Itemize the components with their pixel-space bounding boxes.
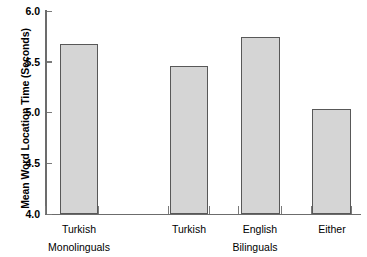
- x-label-bar-1: Turkish: [159, 224, 219, 235]
- bar-turkish-monolinguals: [60, 44, 98, 214]
- x-label-bar-3: Either: [302, 224, 362, 235]
- bar-turkish-bilinguals: [170, 66, 208, 214]
- x-tick-mark-0: [45, 206, 46, 214]
- y-tick-label-4: 4.0: [0, 209, 40, 220]
- y-axis-title: Mean Word Location Time (Seconds): [16, 11, 34, 226]
- bar-either-bilinguals: [312, 109, 351, 214]
- y-tick-label-6: 6.0: [0, 6, 40, 17]
- x-tick-mark-3: [209, 206, 210, 214]
- x-label-bar-2: English: [230, 224, 290, 235]
- x-tick-mark-1: [98, 206, 99, 214]
- x-label-bar-0: Turkish: [49, 224, 109, 235]
- y-tick-label-5: 5.0: [0, 107, 40, 118]
- y-tick-mark-5: [47, 112, 52, 113]
- x-tick-mark-7: [351, 206, 352, 214]
- y-tick-label-5-5: 5.5: [0, 57, 40, 68]
- bar-chart: Mean Word Location Time (Seconds) 6.0 5.…: [0, 0, 367, 257]
- y-tick-mark-5-5: [47, 61, 52, 62]
- bar-english-bilinguals: [241, 37, 280, 214]
- x-group-label-monolinguals: Monolinguals: [34, 242, 124, 253]
- y-tick-label-4-5: 4.5: [0, 158, 40, 169]
- x-tick-mark-4: [238, 206, 239, 214]
- x-group-label-bilinguals: Bilinguals: [210, 242, 300, 253]
- y-tick-mark-4: [47, 214, 52, 215]
- y-tick-mark-4-5: [47, 163, 52, 164]
- y-tick-mark-6: [47, 11, 52, 12]
- x-tick-mark-5: [281, 206, 282, 214]
